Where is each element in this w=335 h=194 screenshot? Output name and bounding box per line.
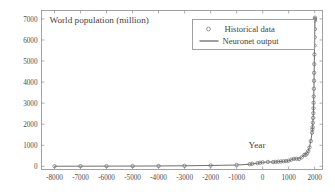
figure-container: -8000-7000-6000-5000-4000-3000-2000-1000… (0, 0, 335, 194)
y-tick-label: 6000 (23, 37, 38, 45)
legend-label-historical: Historical data (225, 24, 276, 34)
x-tick-label: -6000 (98, 174, 115, 182)
y-tick-label: 3000 (23, 100, 38, 108)
y-tick-label: 1000 (23, 142, 38, 150)
y-tick-label: 5000 (23, 58, 38, 66)
y-tick-label: 2000 (23, 121, 38, 129)
x-tick-label: -1000 (228, 174, 245, 182)
x-tick-label: -4000 (150, 174, 167, 182)
population-chart: -8000-7000-6000-5000-4000-3000-2000-1000… (0, 0, 335, 194)
x-tick-label: -2000 (202, 174, 219, 182)
x-tick-label: -5000 (124, 174, 141, 182)
x-tick-label: 0 (261, 174, 265, 182)
y-axis-title: World population (million) (50, 15, 149, 25)
x-axis-title: Year (249, 140, 266, 150)
x-tick-label: -8000 (46, 174, 63, 182)
x-tick-label: -3000 (176, 174, 193, 182)
y-tick-label: 4000 (23, 79, 38, 87)
y-tick-label: 0 (34, 163, 38, 171)
y-tick-label: 7000 (23, 16, 38, 24)
x-tick-label: -7000 (72, 174, 89, 182)
x-tick-label: 2000 (308, 174, 323, 182)
x-tick-label: 1000 (281, 174, 296, 182)
legend-label-neuronet: Neuronet output (223, 36, 280, 46)
